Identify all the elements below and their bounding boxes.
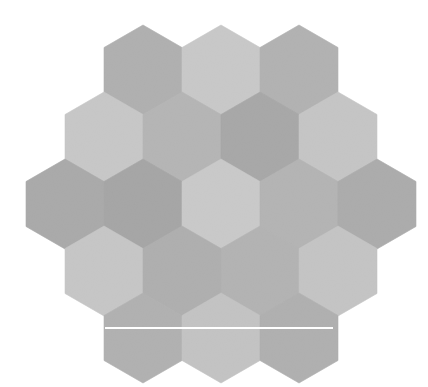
- hexagon-tiling-canvas: [0, 0, 428, 387]
- hexagon-tiling-svg: [0, 0, 428, 387]
